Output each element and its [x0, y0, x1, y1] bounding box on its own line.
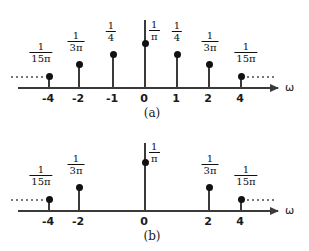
fraction-numerator: 1: [68, 154, 85, 164]
stem-dot-a-pos1: [174, 51, 181, 58]
tick-label-b-neg2: -2: [72, 216, 84, 227]
fraction-numerator: 1: [202, 154, 219, 164]
panel-a: ω -4 -2 -1 0 1 2 4 1 15π 1: [0, 0, 309, 125]
stem-dot-b-neg4: [46, 196, 53, 203]
stem-value-label-a-neg2: 1 3π: [68, 31, 85, 53]
fraction-numerator: 1: [234, 165, 257, 175]
stem-value-label-a-zero: 1 π: [149, 20, 160, 42]
stem-value-label-a-pos4: 1 15π: [234, 42, 257, 64]
stem-dot-a-zero: [142, 40, 149, 47]
axis-arrow-a: [270, 84, 279, 92]
fraction-numerator: 1: [149, 20, 160, 30]
continuation-dots-right-b: [247, 199, 275, 201]
stem-dot-a-neg2: [76, 61, 83, 68]
fraction-denominator: 3π: [68, 42, 85, 53]
stem-b-pos2: [208, 188, 210, 211]
stem-value-label-a-neg4: 1 15π: [29, 42, 52, 64]
fraction-denominator: π: [149, 31, 160, 42]
stem-dot-b-pos2: [206, 184, 213, 191]
panel-caption-a: (a): [144, 107, 161, 119]
axis-label-omega-b: ω: [285, 205, 294, 216]
stem-value-label-a-neg1: 1 4: [106, 21, 116, 43]
fraction-denominator: 4: [172, 32, 182, 43]
axis-arrow-b: [270, 207, 279, 215]
stem-dot-a-neg1: [110, 51, 117, 58]
tick-label-b-pos2: 2: [204, 216, 212, 227]
tick-label-b-neg4: -4: [42, 216, 54, 227]
stem-b-zero: [144, 143, 146, 211]
stem-dot-a-neg4: [46, 73, 53, 80]
stem-b-neg2: [78, 188, 80, 211]
tick-label-b-pos4: 4: [236, 216, 244, 227]
fraction-denominator: 3π: [68, 165, 85, 176]
axis-label-omega-a: ω: [285, 82, 294, 93]
stem-value-label-b-pos4: 1 15π: [234, 165, 257, 187]
stem-dot-a-pos2: [206, 61, 213, 68]
stem-dot-a-pos4: [238, 73, 245, 80]
continuation-dots-right-a: [247, 76, 275, 78]
stem-dot-b-neg2: [76, 184, 83, 191]
stem-value-label-a-pos2: 1 3π: [202, 31, 219, 53]
tick-label-b-zero: 0: [140, 216, 148, 227]
stem-dot-b-pos4: [238, 196, 245, 203]
tick-label-a-zero: 0: [140, 93, 148, 104]
fraction-numerator: 1: [234, 42, 257, 52]
fraction-denominator: 15π: [29, 53, 52, 64]
stem-a-neg2: [78, 65, 80, 88]
tick-label-a-pos2: 2: [204, 93, 212, 104]
fraction-denominator: π: [149, 153, 160, 164]
tick-label-a-neg4: -4: [42, 93, 54, 104]
tick-label-a-neg2: -2: [72, 93, 84, 104]
fraction-numerator: 1: [202, 31, 219, 41]
fraction-denominator: 4: [106, 32, 116, 43]
stem-a-neg1: [112, 55, 114, 88]
stem-dot-b-zero: [142, 159, 149, 166]
stem-value-label-b-neg2: 1 3π: [68, 154, 85, 176]
stem-plot-figure: ω -4 -2 -1 0 1 2 4 1 15π 1: [0, 0, 309, 251]
fraction-denominator: 3π: [202, 42, 219, 53]
tick-label-a-pos1: 1: [172, 93, 180, 104]
fraction-numerator: 1: [29, 165, 52, 175]
fraction-numerator: 1: [29, 42, 52, 52]
stem-a-pos2: [208, 65, 210, 88]
continuation-dots-left-a: [11, 76, 43, 78]
fraction-numerator: 1: [68, 31, 85, 41]
continuation-dots-left-b: [11, 199, 43, 201]
stem-value-label-b-neg4: 1 15π: [29, 165, 52, 187]
fraction-denominator: 3π: [202, 165, 219, 176]
axis-line-a: [18, 87, 278, 89]
fraction-numerator: 1: [149, 142, 160, 152]
fraction-denominator: 15π: [234, 53, 257, 64]
stem-value-label-b-pos2: 1 3π: [202, 154, 219, 176]
stem-value-label-a-pos1: 1 4: [172, 21, 182, 43]
stem-a-pos1: [176, 55, 178, 88]
tick-label-a-pos4: 4: [236, 93, 244, 104]
fraction-denominator: 15π: [234, 176, 257, 187]
fraction-numerator: 1: [106, 21, 116, 31]
panel-caption-b: (b): [143, 230, 160, 242]
axis-line-b: [18, 210, 278, 212]
fraction-denominator: 15π: [29, 176, 52, 187]
fraction-numerator: 1: [172, 21, 182, 31]
tick-label-a-neg1: -1: [106, 93, 118, 104]
stem-a-zero: [144, 20, 146, 88]
panel-b: ω -4 -2 0 2 4 1 15π 1 3π: [0, 125, 309, 251]
stem-value-label-b-zero: 1 π: [149, 142, 160, 164]
